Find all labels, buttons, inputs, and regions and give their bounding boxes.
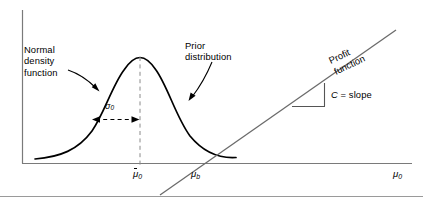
sigma-label: σ0 bbox=[105, 101, 114, 112]
normal-density-curve bbox=[35, 58, 236, 160]
breakeven-subscript: b bbox=[196, 173, 200, 180]
prior-distribution-label: Prior distribution bbox=[185, 40, 232, 63]
sigma-subscript: 0 bbox=[111, 104, 115, 111]
normal-density-label: Normal density function bbox=[24, 44, 58, 78]
axis-label-breakeven: μb bbox=[191, 168, 200, 181]
figure-canvas bbox=[0, 0, 423, 207]
xaxis-subscript: 0 bbox=[398, 173, 402, 180]
mean-symbol: μ bbox=[133, 168, 138, 179]
sigma-measure-arrow bbox=[92, 116, 140, 123]
slope-symbol: C bbox=[331, 89, 338, 100]
mean-symbol-overbar: μ bbox=[133, 168, 138, 179]
prior-distribution-pointer-arrow bbox=[189, 62, 213, 101]
slope-triangle bbox=[292, 83, 325, 107]
statistics-figure: Normal density function Prior distributi… bbox=[0, 0, 423, 207]
overbar bbox=[134, 168, 137, 169]
normal-density-pointer-arrow bbox=[68, 70, 100, 92]
slope-text: = slope bbox=[338, 89, 372, 100]
mean-subscript: 0 bbox=[138, 173, 142, 180]
slope-label: C = slope bbox=[331, 89, 372, 100]
axis-label-mean: μ0 bbox=[133, 168, 142, 181]
axis-title-x: μ0 bbox=[393, 168, 402, 181]
